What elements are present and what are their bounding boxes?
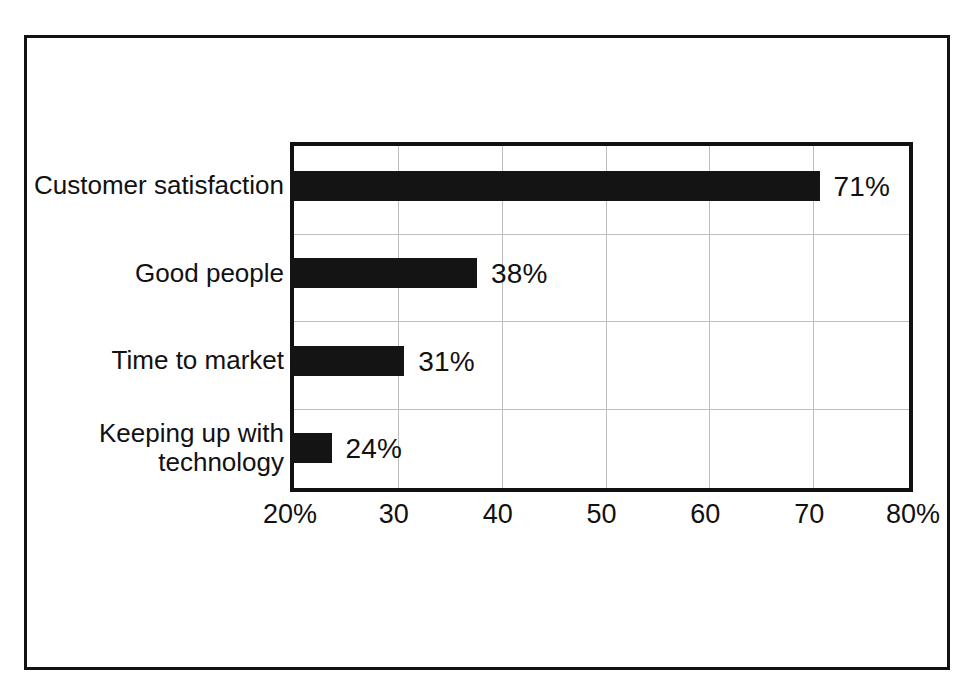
bar [290,346,404,376]
x-tick-label: 20% [263,498,317,530]
bar-value-label: 38% [491,259,548,289]
x-tick-label: 70 [794,498,824,530]
bar [290,258,477,288]
gridline-horizontal [294,321,909,322]
category-label: Customer satisfaction [20,171,290,200]
x-tick-label: 80% [886,498,940,530]
gridline-horizontal [294,409,909,410]
x-tick-label: 60 [690,498,720,530]
category-label: Good people [20,259,290,288]
horizontal-bar-chart: Customer satisfactionGood peopleTime to … [0,0,974,685]
category-axis-labels: Customer satisfactionGood peopleTime to … [8,142,290,492]
x-axis-tick-labels: 20%304050607080% [0,498,974,538]
x-tick-label: 30 [379,498,409,530]
bar-value-label: 31% [418,347,475,377]
bar-value-label: 71% [834,172,891,202]
gridline-horizontal [294,234,909,235]
bar-value-label: 24% [346,434,403,464]
bar [290,171,820,201]
bar [290,433,332,463]
x-tick-label: 50 [586,498,616,530]
figure-canvas: Customer satisfactionGood peopleTime to … [0,0,974,685]
x-tick-label: 40 [483,498,513,530]
category-label: Time to market [20,346,290,375]
category-label: Keeping up with technology [20,419,290,477]
